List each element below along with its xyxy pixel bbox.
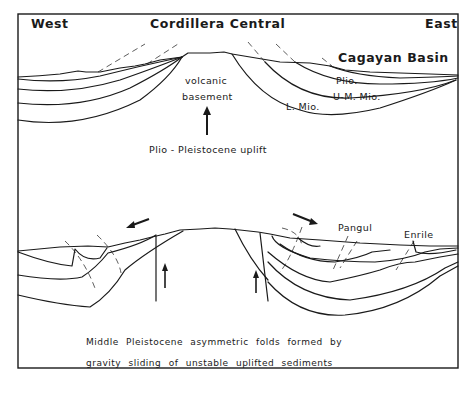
lower-cross-section — [18, 214, 458, 315]
caption-line-1: Middle Pleistocene asymmetric folds form… — [86, 337, 342, 347]
slide-arrow-east-icon — [293, 214, 318, 225]
basin-label: Cagayan Basin — [338, 50, 449, 65]
uplift-label: Plio - Pleistocene uplift — [149, 144, 267, 155]
slide-arrow-west-icon — [126, 219, 149, 228]
caption-line-2: gravity sliding of unstable uplifted sed… — [86, 358, 333, 368]
section-title: Cordillera Central — [150, 16, 285, 31]
unit-label-l-mio: L. Mio. — [286, 101, 320, 112]
locality-enrile: Enrile — [404, 229, 433, 240]
figure-frame — [18, 14, 458, 368]
uplift-arrow-west-icon — [162, 263, 168, 288]
volcanic-label: volcanic — [185, 75, 227, 86]
unit-label-plio: Plio. — [336, 75, 358, 86]
uplift-arrow-icon — [203, 106, 211, 135]
basement-label: basement — [182, 91, 233, 102]
east-label: East — [425, 16, 458, 31]
west-label: West — [31, 16, 69, 31]
uplift-arrow-east-icon — [253, 270, 259, 293]
unit-label-um-mio: U-M. Mio. — [333, 91, 381, 102]
locality-pangul: Pangul — [338, 222, 372, 233]
cross-section-diagram: West Cordillera Central East Cagayan Bas… — [0, 0, 475, 394]
